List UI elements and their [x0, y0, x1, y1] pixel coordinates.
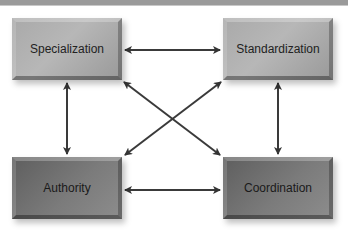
standardization-label: Standardization [236, 42, 319, 56]
specialization-label: Specialization [30, 42, 104, 56]
standardization-box: Standardization [223, 18, 333, 80]
coordination-box: Coordination [223, 157, 333, 219]
authority-box: Authority [12, 157, 122, 219]
authority-label: Authority [43, 181, 90, 195]
specialization-box: Specialization [12, 18, 122, 80]
coordination-label: Coordination [244, 181, 312, 195]
